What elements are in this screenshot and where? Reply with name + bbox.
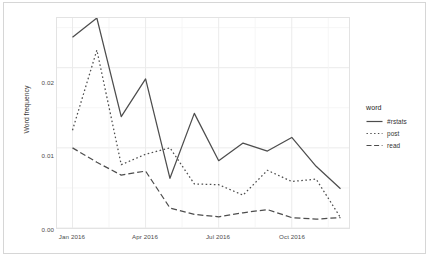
legend-label-read: read bbox=[387, 142, 400, 149]
plot-panel bbox=[56, 17, 350, 229]
x-tick-label-jul-2016: Jul 2016 bbox=[206, 233, 230, 240]
legend-label-rstats: #rstats bbox=[387, 118, 407, 125]
data-series-layer bbox=[73, 18, 341, 219]
chart-figure: Word frequency 0.02 0.01 0.00 Jan 2016 A… bbox=[0, 0, 429, 260]
y-axis-ticks: 0.02 0.01 0.00 bbox=[26, 0, 54, 260]
legend-item-read[interactable]: read bbox=[366, 139, 422, 151]
x-tick-label-oct-2016: Oct 2016 bbox=[279, 233, 305, 240]
legend-key-solid-icon bbox=[366, 116, 383, 127]
legend-key-dashed-icon bbox=[366, 140, 383, 151]
y-tick-label-0.02: 0.02 bbox=[30, 79, 54, 86]
legend-label-post: post bbox=[387, 130, 399, 137]
legend-item-post[interactable]: post bbox=[366, 127, 422, 139]
gridlines-major-y bbox=[57, 68, 349, 228]
y-tick-label-0.01: 0.01 bbox=[30, 152, 54, 159]
x-tick-label-apr-2016: Apr 2016 bbox=[132, 233, 158, 240]
legend: word #rstats post read bbox=[366, 104, 422, 151]
series-line-post bbox=[73, 50, 341, 218]
series-line-read bbox=[73, 148, 341, 219]
legend-key-dotted-icon bbox=[366, 128, 383, 139]
x-tick-label-jan-2016: Jan 2016 bbox=[59, 233, 85, 240]
plot-canvas bbox=[57, 18, 349, 228]
legend-title: word bbox=[366, 104, 422, 111]
legend-item-rstats[interactable]: #rstats bbox=[366, 115, 422, 127]
y-tick-label-0.00: 0.00 bbox=[30, 226, 54, 233]
series-line-rstats bbox=[73, 18, 341, 189]
plot-wrapper: Word frequency 0.02 0.01 0.00 Jan 2016 A… bbox=[0, 0, 429, 260]
